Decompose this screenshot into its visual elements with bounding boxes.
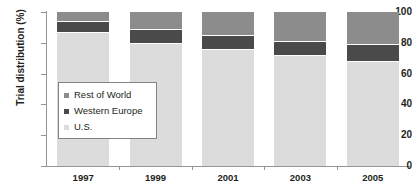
x-tick-label: 2005 <box>343 172 403 183</box>
x-tick-mark <box>337 166 338 170</box>
x-tick-label: 2001 <box>198 172 258 183</box>
legend: Rest of WorldWestern EuropeU.S. <box>58 82 157 139</box>
bar-group[interactable] <box>347 12 399 166</box>
legend-label: Rest of World <box>74 87 131 103</box>
y-tick-mark <box>41 166 47 167</box>
bar-segment[interactable] <box>202 35 254 49</box>
y-axis-title: Trial distribution (%) <box>15 0 26 133</box>
x-tick-mark <box>119 166 120 170</box>
x-axis-line <box>46 166 410 167</box>
x-tick-label: 1999 <box>126 172 186 183</box>
bar-segment[interactable] <box>347 12 399 44</box>
x-tick-label: 1997 <box>53 172 113 183</box>
x-tick-mark <box>264 166 265 170</box>
legend-swatch-icon <box>64 125 69 130</box>
bar-segment[interactable] <box>347 61 399 166</box>
bar-segment[interactable] <box>274 12 326 41</box>
bar-segment[interactable] <box>274 41 326 55</box>
legend-item[interactable]: U.S. <box>64 119 156 135</box>
legend-item[interactable]: Rest of World <box>64 87 156 103</box>
bar-segment[interactable] <box>202 49 254 166</box>
chart-title <box>0 0 412 1</box>
bar-segment[interactable] <box>347 44 399 61</box>
bar-segment[interactable] <box>57 12 109 21</box>
stacked-bar-chart: Trial distribution (%) 100806040200 1997… <box>0 0 412 192</box>
legend-item[interactable]: Western Europe <box>64 103 156 119</box>
bar-segment[interactable] <box>130 12 182 29</box>
x-tick-label: 2003 <box>270 172 330 183</box>
x-tick-mark <box>192 166 193 170</box>
bar-segment[interactable] <box>274 55 326 166</box>
legend-swatch-icon <box>64 109 69 114</box>
legend-label: Western Europe <box>74 103 142 119</box>
bar-segment[interactable] <box>202 12 254 35</box>
bar-group[interactable] <box>202 12 254 166</box>
bar-segment[interactable] <box>57 21 109 32</box>
legend-label: U.S. <box>74 119 92 135</box>
legend-swatch-icon <box>64 93 69 98</box>
bar-segment[interactable] <box>130 29 182 43</box>
bar-group[interactable] <box>274 12 326 166</box>
